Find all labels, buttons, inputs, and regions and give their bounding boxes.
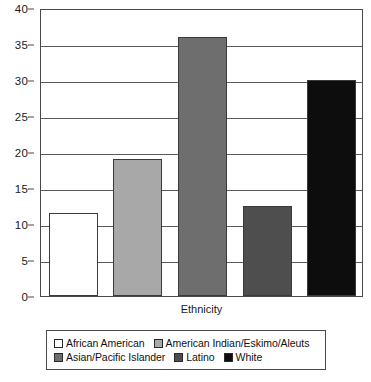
legend-label: American Indian/Eskimo/Aleuts xyxy=(166,336,310,350)
legend-swatch-icon xyxy=(224,353,233,362)
y-axis-tick-mark xyxy=(28,153,34,154)
legend-row: African AmericanAmerican Indian/Eskimo/A… xyxy=(54,336,319,350)
plot-area xyxy=(40,9,363,297)
legend-item: African American xyxy=(54,336,145,350)
legend-label: Asian/Pacific Islander xyxy=(66,350,165,364)
legend-label: Latino xyxy=(186,350,214,364)
bar-chart: 0510152025303540 Ethnicity African Ameri… xyxy=(0,0,371,382)
y-axis-tick-mark xyxy=(28,45,34,46)
y-axis-tick-marks xyxy=(0,9,42,297)
y-axis-tick-mark xyxy=(28,225,34,226)
chart-legend: African AmericanAmerican Indian/Eskimo/A… xyxy=(46,330,326,370)
legend-swatch-icon xyxy=(154,339,163,348)
y-axis-tick-mark xyxy=(28,117,34,118)
bar-asian-pacific-islander xyxy=(178,37,227,296)
bar-african-american xyxy=(49,213,98,296)
legend-item: American Indian/Eskimo/Aleuts xyxy=(154,336,310,350)
y-axis-tick-mark xyxy=(28,189,34,190)
legend-label: African American xyxy=(66,336,145,350)
y-axis-tick-mark xyxy=(28,81,34,82)
legend-item: Asian/Pacific Islander xyxy=(54,350,165,364)
y-axis-tick-mark xyxy=(28,9,34,10)
x-axis-label: Ethnicity xyxy=(40,303,363,315)
bar-american-indian-eskimo-aleuts xyxy=(113,159,162,296)
bar-latino xyxy=(243,206,292,296)
bars-layer xyxy=(41,10,362,296)
y-axis-tick-mark xyxy=(28,297,34,298)
legend-swatch-icon xyxy=(54,353,63,362)
legend-item: White xyxy=(224,350,263,364)
y-axis-tick-mark xyxy=(28,261,34,262)
bar-white xyxy=(307,80,356,296)
legend-swatch-icon xyxy=(174,353,183,362)
legend-swatch-icon xyxy=(54,339,63,348)
legend-item: Latino xyxy=(174,350,214,364)
legend-label: White xyxy=(236,350,263,364)
legend-row: Asian/Pacific IslanderLatinoWhite xyxy=(54,350,319,364)
